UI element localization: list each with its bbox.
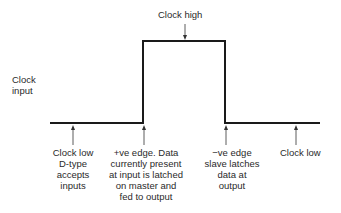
arrow-clock-low-start-icon (71, 125, 75, 145)
annotation-line: fed to output (108, 191, 184, 202)
annotation-line: data at (204, 169, 260, 180)
annotation-line: +ve edge. Data (108, 147, 184, 158)
annotation-line: inputs (47, 180, 99, 191)
annotation-line: accepts (47, 169, 99, 180)
signal-label: Clock input (12, 74, 36, 96)
arrow-clock-low-end-icon (294, 125, 298, 145)
positive-edge-label: +ve edge. Data currently present at inpu… (108, 147, 184, 202)
signal-label-line: input (12, 85, 36, 96)
annotation-line: currently present (108, 158, 184, 169)
annotation-line: at input is latched (108, 169, 184, 180)
annotation-line: output (204, 180, 260, 191)
annotation-line: −ve edge (204, 147, 260, 158)
annotation-line: on master and (108, 180, 184, 191)
clock-high-label: Clock high (158, 9, 202, 20)
clock-low-end-label: Clock low (280, 147, 321, 158)
signal-label-line: Clock (12, 74, 36, 85)
annotation-line: slave latches (204, 158, 260, 169)
arrow-positive-edge-icon (142, 125, 146, 145)
clock-waveform (50, 41, 320, 123)
annotation-line: D-type (47, 158, 99, 169)
arrow-clock-high-icon (183, 24, 187, 40)
clock-low-start-label: Clock low D-type accepts inputs (47, 147, 99, 191)
negative-edge-label: −ve edge slave latches data at output (204, 147, 260, 191)
annotation-line: Clock low (47, 147, 99, 158)
arrow-negative-edge-icon (224, 125, 228, 145)
